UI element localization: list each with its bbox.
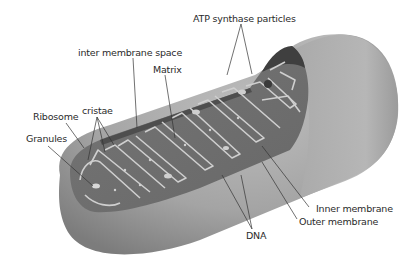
label-cristae: cristae (82, 106, 113, 116)
label-inter-membrane-space: inter membrane space (78, 48, 182, 58)
mitochondrion-diagram: ATP synthase particles inter membrane sp… (0, 0, 420, 275)
label-outer-membrane: Outer membrane (299, 217, 378, 227)
label-ribosome: Ribosome (33, 112, 78, 122)
label-dna: DNA (246, 231, 266, 241)
label-inner-membrane: Inner membrane (316, 204, 393, 214)
label-matrix: Matrix (153, 65, 182, 75)
label-atp-synthase-particles: ATP synthase particles (193, 14, 296, 24)
label-granules: Granules (26, 134, 67, 144)
